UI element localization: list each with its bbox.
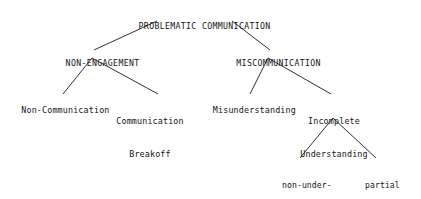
node-miscommunication-label: MISCOMMUNICATION bbox=[236, 58, 320, 68]
node-non-engagement-label: NON-ENGAGEMENT bbox=[66, 58, 140, 68]
node-non-communication-label: Non-Communication bbox=[21, 105, 109, 115]
node-misunderstanding-label: Misunderstanding bbox=[213, 105, 296, 115]
node-communication-breakoff-line1: Communication bbox=[116, 116, 184, 127]
node-non-understanding: non-under- standing bbox=[282, 158, 332, 199]
tree-diagram: PROBLEMATIC COMMUNICATION NON-ENGAGEMENT… bbox=[0, 0, 421, 199]
node-non-communication: Non-Communication bbox=[0, 94, 109, 127]
node-miscommunication: MISCOMMUNICATION bbox=[215, 47, 321, 80]
node-communication-breakoff: Communication Breakoff bbox=[116, 94, 184, 182]
node-non-understanding-line1: non-under- bbox=[282, 180, 332, 191]
node-problematic-communication: PROBLEMATIC COMMUNICATION bbox=[117, 10, 270, 43]
node-problematic-communication-label: PROBLEMATIC COMMUNICATION bbox=[139, 21, 271, 31]
node-partial-understanding: partial under- standing bbox=[365, 158, 405, 199]
node-communication-breakoff-line2: Breakoff bbox=[116, 149, 184, 160]
node-partial-understanding-line1: partial bbox=[365, 180, 405, 191]
node-misunderstanding: Misunderstanding bbox=[192, 94, 296, 127]
node-non-engagement: NON-ENGAGEMENT bbox=[44, 47, 139, 80]
node-incomplete-understanding-line1: Incomplete bbox=[300, 116, 368, 127]
